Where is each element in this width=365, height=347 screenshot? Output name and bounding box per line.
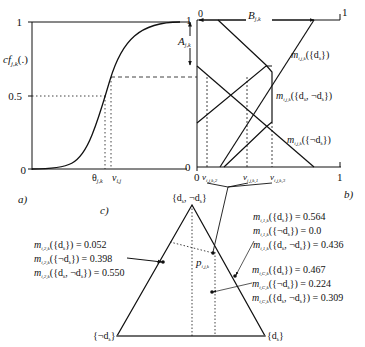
m-not-dk-label: mi,j,k({¬dk}) <box>287 134 331 147</box>
m-not-dk-line <box>197 66 314 167</box>
panel-b: 0 1 1 0 0 1 Bj,k Aj,k νi,j,k,2 νi,j,k,1 … <box>177 6 354 252</box>
nu-k2-label: νi,j,k,2 <box>202 172 218 184</box>
mass-row: mi,1,k({dk, ¬dk}) = 0.436 <box>253 239 343 252</box>
panel-a-tick-half: 0.5 <box>8 90 22 102</box>
apex-label: {dk, ¬dk} <box>172 192 207 204</box>
point-p-label: pi,j,k <box>195 256 210 270</box>
mass-row: mi,C,k({¬dk}) = 0.224 <box>252 278 331 291</box>
m-dk-label: mi,j,k({dk}) <box>291 49 329 62</box>
mass-row: mi,1,k({¬dk}) = 0.0 <box>253 225 321 238</box>
panel-b-x-zero: 0 <box>194 171 200 183</box>
mass-group-iCk: mi,C,k({dk}) = 0.467 mi,C,k({¬dk}) = 0.2… <box>252 264 343 305</box>
left-vertex-label: {¬dk} <box>93 330 116 342</box>
nu-to-point-line <box>213 187 228 252</box>
panel-c: c) {dk, ¬dk} {¬dk} {dk} pi,j,k mi,2,k({d… <box>34 192 343 342</box>
mc-arrow <box>213 283 252 292</box>
mass-group-i1k: mi,1,k({dk}) = 0.564 mi,1,k({¬dk}) = 0.0… <box>253 211 343 252</box>
m-uncertain-line <box>218 20 272 167</box>
theta-tick-label: θj,k <box>92 172 103 184</box>
point-left-guide <box>170 242 213 253</box>
mass-row: mi,2,k({dk, ¬dk}) = 0.550 <box>34 267 124 280</box>
mass-group-i2k: mi,2,k({dk}) = 0.052 mi,2,k({¬dk}) = 0.3… <box>34 239 124 280</box>
mass-row: mi,1,k({dk}) = 0.564 <box>253 211 326 224</box>
nu-k1-label: νi,j,k,1 <box>243 172 258 184</box>
panel-c-label: c) <box>100 204 109 217</box>
nu-tick-label: νi,j <box>112 172 122 184</box>
figure: 1 0.5 0 cfj,k(.) θj,k νi,j a) 0 1 1 0 0 … <box>0 0 365 347</box>
panel-b-top-zero: 0 <box>198 8 203 19</box>
panel-b-y-bottom: 0 <box>185 161 191 173</box>
panel-a-y-label: cfj,k(.) <box>3 53 28 68</box>
sigmoid-curve <box>32 22 180 169</box>
mass-row: mi,2,k({dk}) = 0.052 <box>34 239 107 252</box>
panel-b-x-one: 1 <box>337 171 343 183</box>
panel-a: 1 0.5 0 cfj,k(.) θj,k νi,j a) <box>3 16 197 206</box>
panel-b-label: b) <box>344 188 354 201</box>
nu-connector <box>207 183 248 187</box>
right-vertex-label: {dk} <box>267 330 284 342</box>
panel-a-tick-0: 0 <box>21 164 27 176</box>
panel-b-top-one: 1 <box>342 6 348 18</box>
m2-arrow <box>127 258 162 262</box>
mass-row: mi,C,k({dk}) = 0.467 <box>252 264 325 277</box>
nu-k3-label: νi,j,k,3 <box>270 172 286 184</box>
mass-row: mi,2,k({¬dk}) = 0.398 <box>34 253 112 266</box>
m-uncertain-label: mi,j,k({dk, ¬dk}) <box>276 90 332 103</box>
simplex-triangle <box>117 205 265 336</box>
point-p <box>211 251 215 255</box>
panel-b-y-top: 1 <box>186 14 192 26</box>
panel-a-label: a) <box>18 193 28 206</box>
panel-a-tick-1: 1 <box>17 16 23 28</box>
mass-row: mi,C,k({dk, ¬dk}) = 0.309 <box>252 292 343 305</box>
